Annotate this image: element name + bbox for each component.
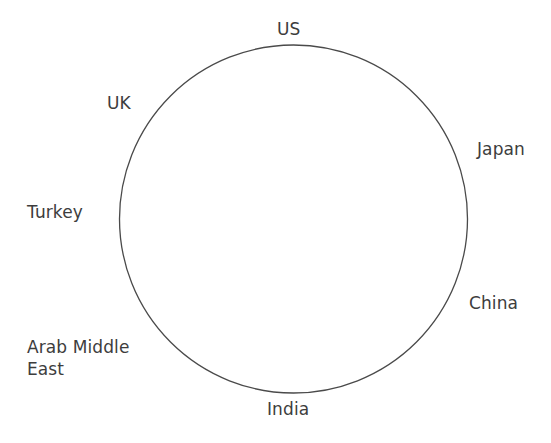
node-label-china: China [469, 292, 518, 314]
node-label-india: India [267, 398, 309, 420]
node-label-turkey: Turkey [27, 201, 83, 223]
node-label-uk: UK [107, 92, 131, 114]
node-label-us: US [277, 18, 300, 40]
node-label-arab-middle-east: Arab Middle East [27, 336, 130, 380]
circle-shape [120, 45, 468, 393]
diagram-canvas: US UK Japan Turkey China Arab Middle Eas… [0, 0, 551, 443]
node-label-japan: Japan [477, 138, 525, 160]
